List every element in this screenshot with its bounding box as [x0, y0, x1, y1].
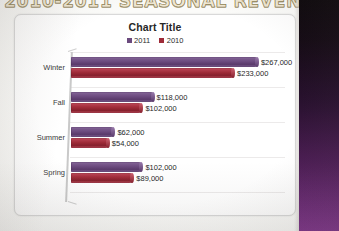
chart-title: Chart Title	[15, 21, 295, 33]
bar-summer-2010[interactable]	[71, 138, 109, 148]
bar-end-cap	[255, 57, 259, 67]
bar-spring-2010[interactable]	[71, 173, 133, 183]
bar-row: $54,000	[71, 138, 169, 148]
bar-end-cap	[139, 103, 143, 113]
bar-fall-2010[interactable]	[71, 103, 142, 113]
plot-area: Winter$267,000$233,000Fall$118,000$102,0…	[15, 48, 295, 213]
bar-value-label: $89,000	[136, 174, 163, 183]
bar-value-label: $62,000	[117, 128, 144, 137]
bar-end-cap	[139, 162, 143, 172]
legend-item-2010[interactable]: 2010	[159, 36, 183, 45]
chart-card[interactable]: Chart Title 2011 2010 Winter$267,000$233…	[14, 14, 296, 216]
bar-row: $62,000	[71, 127, 174, 137]
bar-value-label: $233,000	[237, 69, 268, 78]
category-label-summer: Summer	[15, 133, 65, 142]
gridline	[70, 52, 285, 53]
bar-value-label: $102,000	[145, 104, 176, 113]
slide-heading: 2010-2011 SEASONAL REVENUES	[4, 0, 294, 13]
legend-swatch-2011	[127, 38, 132, 43]
bar-row: $233,000	[71, 68, 294, 78]
bar-row: $102,000	[71, 103, 202, 113]
bar-value-label: $118,000	[157, 93, 188, 102]
legend-label-2011: 2011	[134, 36, 150, 45]
bar-end-cap	[151, 92, 155, 102]
bar-end-cap	[111, 127, 115, 137]
legend-item-2011[interactable]: 2011	[127, 36, 151, 45]
category-label-fall: Fall	[15, 98, 65, 107]
category-label-winter: Winter	[15, 63, 65, 72]
bar-row: $102,000	[71, 162, 202, 172]
bar-value-label: $54,000	[112, 139, 139, 148]
gridline	[70, 87, 285, 88]
bar-row: $118,000	[71, 92, 214, 102]
gridline	[70, 122, 285, 123]
bar-value-label: $267,000	[261, 58, 292, 67]
legend-swatch-2010	[159, 38, 164, 43]
bar-fall-2011[interactable]	[71, 92, 154, 102]
slide-canvas: 2010-2011 SEASONAL REVENUES Chart Title …	[0, 0, 339, 231]
right-decorative-panel	[299, 0, 339, 231]
legend-label-2010: 2010	[167, 36, 184, 45]
bar-end-cap	[106, 138, 110, 148]
bar-winter-2011[interactable]	[71, 57, 258, 67]
category-group: Winter$267,000$233,000	[15, 54, 295, 86]
bar-end-cap	[130, 173, 134, 183]
chart-legend: 2011 2010	[15, 36, 295, 45]
bar-row: $89,000	[71, 173, 193, 183]
bar-summer-2011[interactable]	[71, 127, 114, 137]
category-axis-bottom-tick	[68, 201, 77, 205]
bar-winter-2010[interactable]	[71, 68, 234, 78]
category-group: Spring$102,000$89,000	[15, 159, 295, 191]
gridline	[70, 157, 285, 158]
category-group: Summer$62,000$54,000	[15, 124, 295, 156]
bar-spring-2011[interactable]	[71, 162, 142, 172]
bar-value-label: $102,000	[145, 163, 176, 172]
bar-end-cap	[231, 68, 235, 78]
bar-row: $267,000	[71, 57, 296, 67]
gridline	[70, 192, 285, 193]
category-group: Fall$118,000$102,000	[15, 89, 295, 121]
category-label-spring: Spring	[15, 168, 65, 177]
